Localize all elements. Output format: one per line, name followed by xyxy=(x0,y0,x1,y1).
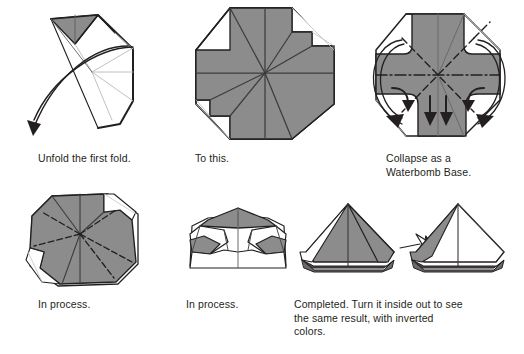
step-panel-in-process-2: In process. xyxy=(168,190,308,295)
step-panel-to-this: To this. xyxy=(182,0,352,150)
step-panel-in-process-1: In process. xyxy=(0,190,180,295)
completed-model-white xyxy=(410,204,504,272)
origami-unfold-first-fold-figure xyxy=(0,0,180,150)
origami-in-process-two-figure xyxy=(168,190,308,295)
step-panel-unfold: Unfold the first fold. xyxy=(0,0,180,150)
step-caption-in-process-1: In process. xyxy=(38,298,90,312)
origami-octagon-creased-figure xyxy=(182,0,352,150)
step-panel-collapse: Collapse as a Waterbomb Base. xyxy=(358,0,524,150)
step-panel-completed: Completed. Turn it inside out to see the… xyxy=(292,190,524,295)
origami-instruction-sheet: Unfold the first fold. xyxy=(0,0,524,354)
turn-over-arrow-shaft xyxy=(400,244,420,248)
origami-completed-pair-figure xyxy=(292,190,524,295)
step-caption-in-process-2: In process. xyxy=(186,298,238,312)
completed-model-grey xyxy=(300,204,394,272)
step-caption-unfold: Unfold the first fold. xyxy=(38,152,131,166)
step-caption-to-this: To this. xyxy=(195,152,229,166)
step-caption-collapse: Collapse as a Waterbomb Base. xyxy=(386,152,471,179)
motion-arrow-head xyxy=(27,120,41,136)
origami-collapse-waterbomb-figure xyxy=(358,0,524,150)
step-caption-completed: Completed. Turn it inside out to see the… xyxy=(294,298,463,339)
origami-in-process-one-figure xyxy=(0,190,180,295)
